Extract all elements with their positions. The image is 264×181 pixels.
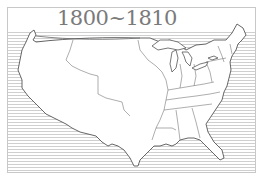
map-title: 1800~1810 xyxy=(57,8,177,29)
us-landmass xyxy=(18,24,246,166)
